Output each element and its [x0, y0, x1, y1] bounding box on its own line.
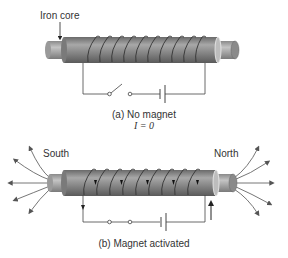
closed-switch — [128, 220, 132, 224]
open-switch — [111, 84, 122, 93]
panel-a-no-magnet: Iron core (a) No magnet I = 0 — [40, 10, 239, 131]
iron-core-label: Iron core — [40, 10, 80, 21]
circuit-b — [81, 195, 205, 231]
electromagnet-diagram: Iron core (a) No magnet I = 0 — [0, 0, 288, 258]
caption-b: (b) Magnet activated — [98, 238, 189, 249]
current-label: I = 0 — [133, 120, 154, 131]
field-lines-north — [234, 148, 272, 214]
north-pole-label: North — [214, 148, 238, 159]
circuit-a — [83, 63, 205, 103]
south-pole-label: South — [43, 148, 69, 159]
caption-a: (a) No magnet — [112, 109, 176, 120]
panel-b-magnet-activated: South North (b) Magnet activated — [10, 148, 272, 249]
current-arrow-down-icon — [81, 205, 85, 210]
